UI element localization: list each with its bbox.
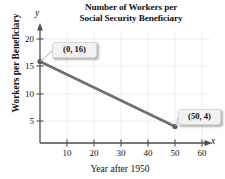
x-axis [40,140,212,146]
x-tick-label-30: 30 [111,148,131,158]
x-tick-label-10: 10 [57,148,77,158]
callout-leader-lines [41,50,178,126]
chart-figure: Number of Workers per Social Security Be… [0,0,225,179]
x-tick-label-50: 50 [165,148,185,158]
annotation-callout-end-point: (50, 4) [178,109,221,125]
y-axis-title: Workers per Beneficiary [11,0,21,128]
x-axis-title: Year after 1950 [45,163,195,174]
y-axis [37,23,43,143]
x-tick-label-60: 60 [192,148,212,158]
x-tick-label-40: 40 [138,148,158,158]
annotation-callout-start-point: (0, 16) [52,42,97,58]
x-tick-label-20: 20 [84,148,104,158]
